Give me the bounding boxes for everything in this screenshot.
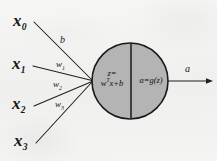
figure-canvas: x0 x1 x2 x3 b w1 w2 w3 z= wTx+b a=g(z) a xyxy=(0,0,217,161)
edge-label-w2: w2 xyxy=(53,80,62,91)
output-arrow-head xyxy=(206,78,213,84)
neuron-preactivation-line2: wTx+b xyxy=(96,78,128,88)
edge-label-w3: w3 xyxy=(55,100,64,111)
input-label-x1: x1 xyxy=(12,55,26,76)
neuron-preactivation-line1: z= xyxy=(96,69,128,78)
input-label-x3: x3 xyxy=(14,132,28,153)
edge-label-w1: w1 xyxy=(56,60,65,71)
input-label-x0: x0 xyxy=(13,12,27,33)
neuron-activation-formula: a=g(z) xyxy=(134,76,168,85)
edge-label-bias: b xyxy=(60,35,65,45)
input-label-x2: x2 xyxy=(12,95,26,116)
edge-line-x3 xyxy=(36,82,92,143)
output-label-a: a xyxy=(185,64,190,74)
neuron-preactivation-formula: z= wTx+b xyxy=(96,69,128,88)
edge-line-x0 xyxy=(34,22,92,80)
